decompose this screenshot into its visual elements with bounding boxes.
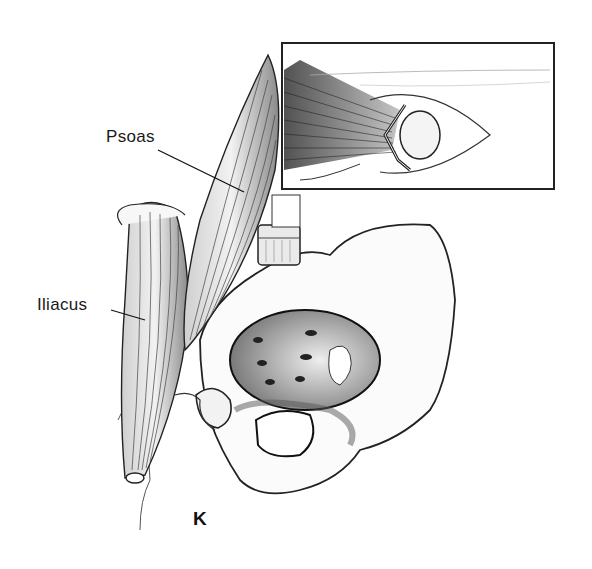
pelvis-muscle-drawing — [0, 0, 592, 569]
iliacus-muscle — [118, 203, 189, 484]
inset-closeup — [282, 43, 554, 189]
psoas-label: Psoas — [106, 127, 155, 147]
anatomical-illustration: Psoas Iliacus K — [0, 0, 592, 569]
iliacus-label: Iliacus — [37, 295, 87, 315]
panel-letter: K — [193, 508, 207, 530]
